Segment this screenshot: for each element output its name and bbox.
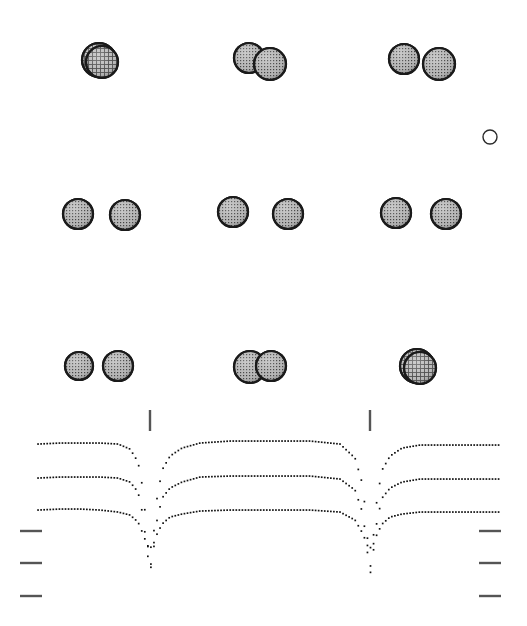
curve-dot [248,440,250,442]
curve-dot [364,537,366,539]
curve-dot [205,476,207,478]
curve-dot [40,477,42,479]
curve-dot [269,475,271,477]
curve-dot [208,510,210,512]
curve-dot [126,513,128,515]
curve-dot [400,482,402,484]
curve-dot [306,475,308,477]
curve-dot [483,444,485,446]
curve-dot [275,440,277,442]
curve-dot [400,448,402,450]
curve-dot [275,475,277,477]
curve-dot [403,513,405,515]
curve-dot [205,510,207,512]
curve-dot [193,511,195,513]
curve-dot [443,478,445,480]
curve-dot [357,525,359,527]
curve-dot [144,538,146,540]
curve-dot [117,477,119,479]
curve-dot [287,509,289,511]
curve-dot [62,508,64,510]
curve-dot [409,446,411,448]
curve-dot [394,452,396,454]
curve-dot [199,442,201,444]
sphere [256,351,286,381]
curve-dot [495,511,497,513]
curve-dot [52,509,54,511]
curve-dot [479,511,481,513]
curve-dot [333,443,335,445]
curve-dot [342,513,344,515]
curve-dot [196,443,198,445]
curve-dot [254,509,256,511]
curve-dot [351,518,353,520]
curve-dot [345,483,347,485]
curve-dot [123,513,125,515]
curve-dot [260,440,262,442]
curve-dot [486,511,488,513]
curve-dot [357,469,359,471]
sphere [431,199,461,229]
curve-dot [284,475,286,477]
sphere [423,48,455,80]
curve-dot [168,488,170,490]
curve-dot [361,530,363,532]
curve-dot [129,448,131,450]
curve-dot [489,511,491,513]
curve-dot [178,483,180,485]
curve-dot [357,499,359,501]
curve-dot [470,478,472,480]
curve-dot [226,440,228,442]
curve-dot [473,511,475,513]
curve-dot [461,511,463,513]
curve-dot [455,511,457,513]
curve-dot [318,441,320,443]
curve-dot [266,475,268,477]
curve-dot [428,444,430,446]
curve-dot [196,511,198,513]
curve-dot [330,442,332,444]
curve-dot [345,514,347,516]
curve-dot [339,511,341,513]
curve-dot [199,476,201,478]
curve-dot [452,511,454,513]
curve-dot [470,511,472,513]
curve-dot [342,446,344,448]
curve-dot [281,475,283,477]
curve-dot [452,444,454,446]
curve-dot [458,511,460,513]
curve-dot [138,465,140,467]
curve-dot [171,486,173,488]
curve-dot [476,444,478,446]
curve-dot [135,457,137,459]
curve-dot [171,454,173,456]
curve-dot [248,475,250,477]
curve-dot [345,449,347,451]
sphere [86,46,118,78]
curve-dot [71,476,73,478]
curve-dot [425,478,427,480]
curve-dot [370,547,372,549]
curve-dot [181,482,183,484]
curve-dot [190,445,192,447]
curve-dot [266,440,268,442]
curve-dot [339,478,341,480]
curve-dot [379,508,381,510]
curve-dot [150,566,152,568]
curve-dot [437,478,439,480]
curve-dot [412,512,414,514]
curve-dot [415,445,417,447]
sphere [65,352,93,380]
curve-dot [211,441,213,443]
curve-dot [403,481,405,483]
curve-dot [330,477,332,479]
curve-dot [226,475,228,477]
curve-dot [440,478,442,480]
curve-dot [281,440,283,442]
curve-dot [217,441,219,443]
curve-dot [364,501,366,503]
curve-dot [232,475,234,477]
curve-dot [104,510,106,512]
curve-dot [46,477,48,479]
curve-dot [101,476,103,478]
